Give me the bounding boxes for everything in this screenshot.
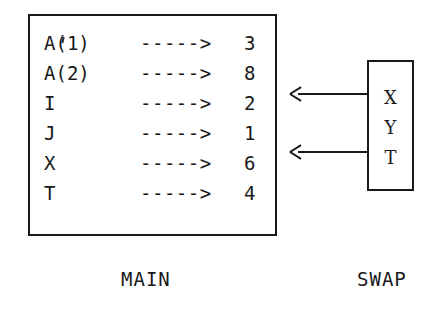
- swap-variable-y: Y: [369, 119, 412, 137]
- arrow-shaft: [298, 93, 369, 95]
- variable-name: X: [44, 154, 55, 173]
- variable-name: T: [44, 184, 55, 203]
- table-row: T -----> 4: [30, 178, 275, 208]
- variable-value: 8: [244, 64, 255, 83]
- swap-memory-box: X Y T: [367, 60, 414, 191]
- variable-value: 1: [244, 124, 255, 143]
- variable-value: 4: [244, 184, 255, 203]
- table-row: A(2) -----> 8: [30, 58, 275, 88]
- variable-name: A(1): [44, 34, 90, 53]
- memory-reference-diagram: A(1) -----> 3 A(2) -----> 8 I -----> 2 J…: [0, 0, 447, 315]
- variable-value: 3: [244, 34, 255, 53]
- points-to-arrow: ----->: [140, 154, 212, 173]
- table-row: I -----> 2: [30, 88, 275, 118]
- swap-box-caption: SWAP: [357, 270, 407, 289]
- points-to-arrow: ----->: [140, 124, 212, 143]
- table-row: J -----> 1: [30, 118, 275, 148]
- reference-arrow-x-to-i: [290, 88, 369, 100]
- reference-arrow-t-to-x: [290, 146, 369, 158]
- points-to-arrow: ----->: [140, 184, 212, 203]
- main-memory-box: A(1) -----> 3 A(2) -----> 8 I -----> 2 J…: [28, 14, 277, 236]
- swap-variable-x: X: [369, 89, 412, 107]
- variable-value: 6: [244, 154, 255, 173]
- variable-name: I: [44, 94, 55, 113]
- points-to-arrow: ----->: [140, 64, 212, 83]
- arrow-shaft: [298, 151, 369, 153]
- variable-value: 2: [244, 94, 255, 113]
- swap-variable-t: T: [369, 149, 412, 167]
- variable-name: J: [44, 124, 55, 143]
- points-to-arrow: ----->: [140, 34, 212, 53]
- main-box-caption: MAIN: [121, 270, 171, 289]
- points-to-arrow: ----->: [140, 94, 212, 113]
- table-row: A(1) -----> 3: [30, 28, 275, 58]
- table-row: X -----> 6: [30, 148, 275, 178]
- variable-name: A(2): [44, 64, 90, 83]
